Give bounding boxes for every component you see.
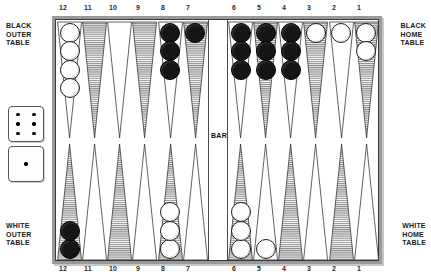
bar[interactable]: BAR	[208, 20, 228, 260]
die-pip	[32, 122, 35, 125]
die-pip	[32, 113, 35, 116]
checker-black[interactable]	[231, 23, 251, 43]
point-numbers-bottom: 121110987654321	[0, 265, 431, 277]
point-number-3: 3	[302, 4, 316, 11]
point-2[interactable]	[329, 21, 354, 141]
point-9[interactable]	[132, 141, 157, 261]
point-number-3: 3	[302, 265, 316, 272]
backgammon-board: BAR	[52, 16, 382, 264]
point-number-8: 8	[156, 265, 170, 272]
checker-white[interactable]	[60, 41, 80, 61]
point-9[interactable]	[132, 21, 157, 141]
checker-white[interactable]	[331, 23, 351, 43]
checker-white[interactable]	[306, 23, 326, 43]
label-black-home-table: BLACK HOME TABLE	[401, 22, 427, 48]
point-number-7: 7	[181, 265, 195, 272]
checker-white[interactable]	[60, 23, 80, 43]
point-3[interactable]	[303, 141, 328, 261]
die-pip	[16, 132, 19, 135]
label-white-home-table: WHITE HOME TABLE	[402, 222, 426, 248]
point-10[interactable]	[107, 141, 132, 261]
point-number-11: 11	[81, 265, 95, 272]
point-number-9: 9	[131, 4, 145, 11]
point-4[interactable]	[278, 141, 303, 261]
point-number-2: 2	[327, 4, 341, 11]
point-number-12: 12	[56, 4, 70, 11]
checker-white[interactable]	[60, 60, 80, 80]
checker-white[interactable]	[60, 78, 80, 98]
checker-white[interactable]	[160, 221, 180, 241]
point-number-10: 10	[106, 4, 120, 11]
quadrant-black-outer-table	[57, 21, 208, 141]
board-playing-surface: BAR	[55, 19, 379, 261]
bar-label: BAR	[209, 132, 229, 139]
point-number-5: 5	[252, 4, 266, 11]
point-number-4: 4	[277, 4, 291, 11]
die-pip	[32, 132, 35, 135]
checker-black[interactable]	[281, 60, 301, 80]
checker-black[interactable]	[256, 60, 276, 80]
checker-black[interactable]	[160, 23, 180, 43]
point-number-1: 1	[352, 265, 366, 272]
point-number-4: 4	[277, 265, 291, 272]
checker-black[interactable]	[60, 239, 80, 259]
point-8[interactable]	[158, 141, 183, 261]
point-number-11: 11	[81, 4, 95, 11]
quadrant-black-home-table	[228, 21, 379, 141]
point-8[interactable]	[158, 21, 183, 141]
point-number-12: 12	[56, 265, 70, 272]
point-5[interactable]	[253, 141, 278, 261]
point-12[interactable]	[57, 141, 82, 261]
die-pip	[16, 113, 19, 116]
point-2[interactable]	[329, 141, 354, 261]
checker-black[interactable]	[281, 23, 301, 43]
checker-black[interactable]	[160, 60, 180, 80]
point-1[interactable]	[354, 141, 379, 261]
point-11[interactable]	[82, 21, 107, 141]
checker-white[interactable]	[231, 202, 251, 222]
point-number-5: 5	[252, 265, 266, 272]
die-right[interactable]	[8, 146, 44, 182]
point-number-6: 6	[227, 4, 241, 11]
point-7[interactable]	[183, 21, 208, 141]
point-10[interactable]	[107, 21, 132, 141]
die-left[interactable]	[8, 106, 44, 142]
label-black-outer-table: BLACK OUTER TABLE	[6, 22, 32, 48]
checker-black[interactable]	[60, 221, 80, 241]
point-7[interactable]	[183, 141, 208, 261]
point-4[interactable]	[278, 21, 303, 141]
checker-white[interactable]	[256, 239, 276, 259]
quadrant-white-home-table	[228, 141, 379, 261]
point-3[interactable]	[303, 21, 328, 141]
checker-white[interactable]	[231, 239, 251, 259]
point-1[interactable]	[354, 21, 379, 141]
quadrant-white-outer-table	[57, 141, 208, 261]
point-number-10: 10	[106, 265, 120, 272]
point-12[interactable]	[57, 21, 82, 141]
point-6[interactable]	[228, 141, 253, 261]
point-6[interactable]	[228, 21, 253, 141]
point-number-8: 8	[156, 4, 170, 11]
checker-black[interactable]	[231, 60, 251, 80]
point-number-7: 7	[181, 4, 195, 11]
point-5[interactable]	[253, 21, 278, 141]
checker-white[interactable]	[231, 221, 251, 241]
point-number-9: 9	[131, 265, 145, 272]
checker-black[interactable]	[256, 23, 276, 43]
checker-black[interactable]	[231, 41, 251, 61]
die-pip	[16, 122, 19, 125]
checker-white[interactable]	[160, 239, 180, 259]
point-11[interactable]	[82, 141, 107, 261]
point-number-1: 1	[352, 4, 366, 11]
checker-black[interactable]	[256, 41, 276, 61]
point-number-2: 2	[327, 265, 341, 272]
label-white-outer-table: WHITE OUTER TABLE	[6, 222, 32, 248]
die-pip	[24, 162, 27, 165]
point-numbers-top: 121110987654321	[0, 4, 431, 16]
point-number-6: 6	[227, 265, 241, 272]
